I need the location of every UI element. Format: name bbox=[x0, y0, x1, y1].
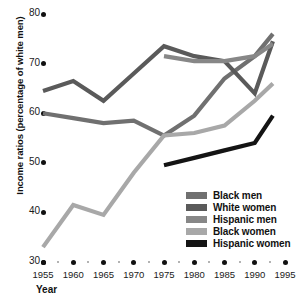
chart-legend: Black menWhite womenHispanic menBlack wo… bbox=[186, 189, 291, 250]
series-line-white-women bbox=[43, 41, 273, 101]
legend-item-label: White women bbox=[213, 202, 276, 213]
legend-swatch-icon bbox=[186, 192, 207, 199]
legend-item: Black women bbox=[186, 226, 291, 238]
income-ratios-line-chart: Income ratios (percentage of white men) … bbox=[0, 0, 303, 302]
legend-item-label: Hispanic women bbox=[213, 238, 291, 249]
legend-item: Hispanic women bbox=[186, 238, 291, 250]
legend-swatch-icon bbox=[186, 204, 207, 211]
legend-item: Hispanic men bbox=[186, 213, 291, 225]
plot-area bbox=[0, 0, 303, 302]
legend-item-label: Black men bbox=[213, 190, 262, 201]
legend-item-label: Hispanic men bbox=[213, 214, 277, 225]
legend-swatch-icon bbox=[186, 216, 207, 223]
legend-item: White women bbox=[186, 201, 291, 213]
legend-swatch-icon bbox=[186, 228, 207, 235]
legend-swatch-icon bbox=[186, 240, 207, 247]
legend-item-label: Black women bbox=[213, 226, 276, 237]
legend-item: Black men bbox=[186, 189, 291, 201]
